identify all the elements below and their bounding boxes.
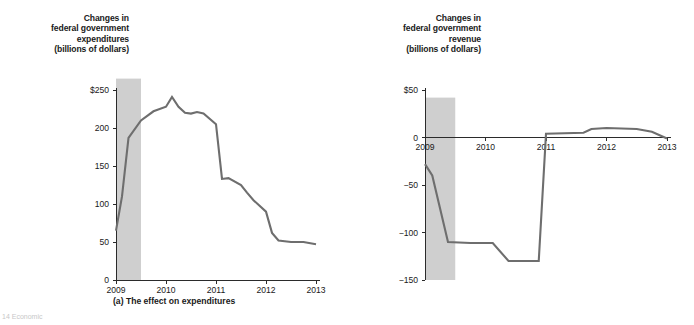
panel-caption-a: (a) The effect on expenditures: [113, 296, 235, 306]
y-axis-tick-label: $250: [90, 85, 109, 95]
recession-shaded-band: [116, 79, 141, 280]
chart-panel-revenue: Changes in federal government revenue (b…: [347, 0, 694, 325]
y-axis-tick-label: 150: [95, 161, 110, 171]
page-footer-fragment: 14 Economic: [2, 313, 98, 322]
x-axis-tick-label: 2010: [476, 142, 495, 152]
y-axis-tick-label: −100: [399, 228, 419, 238]
x-axis-tick-label: 2012: [597, 142, 616, 152]
y-axis-tick-label: −150: [399, 275, 419, 285]
data-series-line: [116, 97, 316, 244]
y-axis-tick-label: 50: [99, 237, 109, 247]
y-axis-tick-label: 200: [95, 123, 110, 133]
recession-shaded-band: [425, 98, 455, 280]
y-axis-tick-label: $50: [404, 85, 419, 95]
x-axis-tick-label: 2013: [306, 285, 325, 295]
x-axis-tick-label: 2013: [657, 142, 676, 152]
x-axis-tick-label: 2009: [415, 142, 434, 152]
x-axis-tick-label: 2012: [256, 285, 275, 295]
expenditures-line-chart: 050100150200$25020092010201120122013: [0, 0, 347, 325]
y-axis-tick-label: −50: [403, 180, 418, 190]
figure-fiscal-stimulus: Changes in federal government expenditur…: [0, 0, 694, 325]
x-axis-tick-label: 2011: [207, 285, 226, 295]
data-series-line: [425, 128, 667, 261]
x-axis-tick-label: 2009: [106, 285, 125, 295]
y-axis-tick-label: 100: [95, 199, 110, 209]
chart-panel-expenditures: Changes in federal government expenditur…: [0, 0, 347, 325]
revenue-line-chart: −150−100−500$5020092010201120122013: [347, 0, 694, 325]
x-axis-tick-label: 2010: [156, 285, 175, 295]
